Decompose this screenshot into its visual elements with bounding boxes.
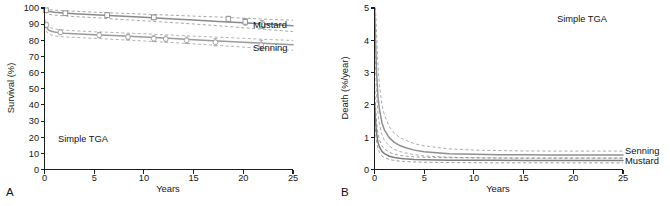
panel-b-confidence-bands xyxy=(375,8,623,163)
y-tick-label: 20 xyxy=(29,133,39,143)
panel-b-label-mustard: Mustard xyxy=(625,155,659,166)
data-marker xyxy=(105,13,110,18)
series-curve xyxy=(375,103,623,160)
panel-b-y-axis-title: Death (%/year) xyxy=(339,56,350,119)
data-marker xyxy=(184,38,189,43)
panel-b-letter: B xyxy=(341,186,349,198)
data-marker xyxy=(63,11,68,16)
x-tick-label: 0 xyxy=(372,173,377,183)
panel-a-letter: A xyxy=(6,186,14,198)
y-tick-label: 40 xyxy=(29,100,39,110)
x-tick-label: 0 xyxy=(42,173,47,183)
data-marker xyxy=(152,15,157,20)
y-tick-label: 70 xyxy=(29,52,39,62)
y-tick-label: 10 xyxy=(29,149,39,159)
y-tick-label: 30 xyxy=(29,116,39,126)
y-tick-label: 3 xyxy=(364,68,369,78)
panel-b-svg: 012345 0510152025 Years Death (%/year) S… xyxy=(335,0,670,206)
y-tick-label: 1 xyxy=(364,133,369,143)
ci-upper-band xyxy=(375,8,623,151)
panel-b-x-axis-title: Years xyxy=(486,183,510,194)
data-marker xyxy=(126,35,131,40)
x-tick-label: 20 xyxy=(238,173,248,183)
panel-b-x-ticks: 0510152025 xyxy=(372,170,628,184)
x-tick-label: 10 xyxy=(139,173,149,183)
ci-lower-band xyxy=(375,34,623,158)
y-tick-label: 90 xyxy=(29,19,39,29)
panel-b-y-ticks: 012345 xyxy=(364,3,375,175)
y-tick-label: 50 xyxy=(29,84,39,94)
data-marker xyxy=(226,17,231,22)
y-tick-label: 4 xyxy=(364,36,369,46)
panel-a-y-ticks: 0102030405060708090100 xyxy=(24,3,45,175)
ci-upper-band xyxy=(375,86,623,159)
x-tick-label: 25 xyxy=(618,173,628,183)
x-tick-label: 15 xyxy=(188,173,198,183)
y-tick-label: 0 xyxy=(34,165,39,175)
panel-a-axis-lines xyxy=(45,8,294,170)
panel-b-axis-lines xyxy=(375,8,624,170)
survival-hazard-figure: 0102030405060708090100 0510152025 Years … xyxy=(0,0,670,206)
data-marker xyxy=(97,33,102,38)
panel-b-axes: 012345 0510152025 xyxy=(364,3,628,183)
panel-a-x-ticks: 0510152025 xyxy=(42,170,298,184)
x-tick-label: 15 xyxy=(518,173,528,183)
panel-b-hazard: 012345 0510152025 Years Death (%/year) S… xyxy=(335,0,670,206)
data-marker xyxy=(243,20,248,25)
y-tick-label: 2 xyxy=(364,100,369,110)
y-tick-label: 80 xyxy=(29,36,39,46)
y-tick-label: 100 xyxy=(24,3,39,13)
y-tick-label: 0 xyxy=(364,165,369,175)
data-marker xyxy=(163,37,168,42)
data-marker xyxy=(151,36,156,41)
x-tick-label: 10 xyxy=(469,173,479,183)
x-tick-label: 5 xyxy=(422,173,427,183)
panel-a-y-axis-title: Survival (%) xyxy=(5,63,16,114)
x-tick-label: 25 xyxy=(288,173,298,183)
data-marker xyxy=(213,40,218,45)
panel-a-label-senning: Senning xyxy=(253,42,287,53)
x-tick-label: 5 xyxy=(92,173,97,183)
panel-b-annotation: Simple TGA xyxy=(557,14,608,24)
panel-a-x-axis-title: Years xyxy=(156,183,180,194)
panel-a-svg: 0102030405060708090100 0510152025 Years … xyxy=(0,0,335,206)
panel-a-survival: 0102030405060708090100 0510152025 Years … xyxy=(0,0,335,206)
y-tick-label: 5 xyxy=(364,3,369,13)
panel-a-label-mustard: Mustard xyxy=(253,19,287,30)
data-marker xyxy=(58,30,63,35)
series-curve xyxy=(375,8,623,155)
panel-b-curves xyxy=(375,8,623,160)
y-tick-label: 60 xyxy=(29,68,39,78)
panel-a-annotation: Simple TGA xyxy=(58,134,109,144)
panel-a-axes: 0102030405060708090100 0510152025 xyxy=(24,3,298,183)
ci-lower-band xyxy=(375,118,623,163)
x-tick-label: 20 xyxy=(568,173,578,183)
